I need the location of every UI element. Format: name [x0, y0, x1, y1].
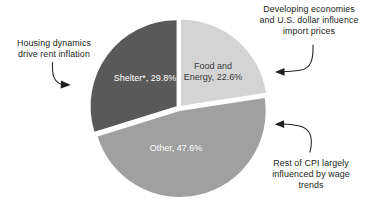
arrow-rest-to-other — [283, 124, 312, 152]
pie-slices — [91, 20, 266, 197]
arrow-developing-to-food — [283, 45, 313, 72]
pie-chart-figure: Housing dynamics drive rent inflation De… — [0, 0, 374, 212]
pie-label-other: Other, 47.6% — [120, 143, 232, 154]
arrow-rest-head — [275, 120, 285, 128]
annotation-rest-of-cpi: Rest of CPI largely influenced by wage t… — [250, 158, 372, 192]
arrow-housing-to-shelter — [52, 63, 62, 85]
annotation-developing: Developing economies and U.S. dollar inf… — [246, 4, 372, 38]
arrow-housing-head — [61, 81, 71, 89]
arrow-developing-head — [275, 68, 285, 76]
pie-label-shelter: Shelter*, 29.8% — [100, 73, 190, 84]
annotation-housing: Housing dynamics drive rent inflation — [4, 38, 104, 60]
